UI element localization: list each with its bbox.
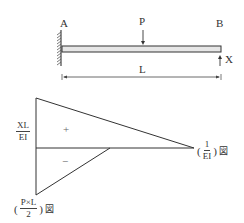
load-p-label: P xyxy=(139,16,145,27)
diagram-suffix: 図 xyxy=(219,144,228,157)
bottom-numerator: P×L xyxy=(20,198,38,209)
diagram-canvas xyxy=(0,0,244,223)
left-denominator: EI xyxy=(19,132,28,142)
beam xyxy=(62,46,221,52)
right-denominator: EI xyxy=(203,151,212,161)
support-a-label: A xyxy=(60,18,68,29)
span-l-label: L xyxy=(139,64,146,75)
load-arrow-icon xyxy=(141,30,145,45)
positive-sign: + xyxy=(63,123,69,135)
close-paren: ) xyxy=(37,203,45,215)
left-value-label: XL EI xyxy=(16,121,30,142)
diagram-suffix: 図 xyxy=(45,202,54,215)
right-numerator: 1 xyxy=(204,140,211,151)
close-paren: ) xyxy=(211,145,219,157)
open-paren: ( xyxy=(12,203,20,215)
negative-sign: − xyxy=(62,155,68,167)
support-b-label: B xyxy=(216,18,223,29)
left-numerator: XL xyxy=(16,121,30,132)
right-diagram-label: ( 1 EI ) 図 xyxy=(195,140,228,161)
fixed-support xyxy=(57,30,61,66)
bottom-denominator: 2 xyxy=(26,209,31,219)
reaction-arrow-icon xyxy=(218,55,222,66)
open-paren: ( xyxy=(195,145,203,157)
moment-diagram xyxy=(36,98,194,195)
bottom-diagram-label: ( P×L 2 ) 図 xyxy=(12,198,54,219)
reaction-x-label: X xyxy=(225,54,233,65)
